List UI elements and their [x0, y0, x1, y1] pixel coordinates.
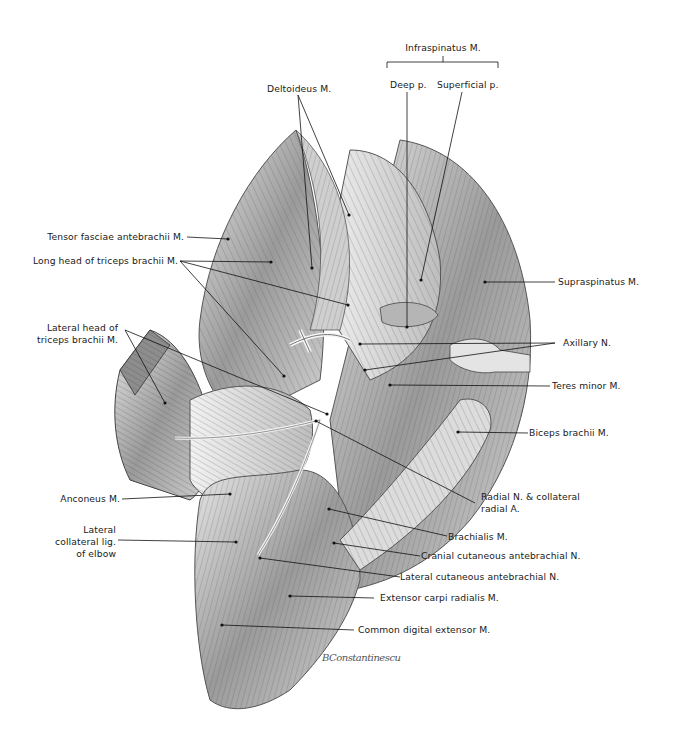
label-axillary-n: Axillary N.: [563, 337, 611, 349]
label-deltoideus: Deltoideus M.: [267, 83, 331, 95]
label-lateral-collateral-line3: of elbow: [20, 548, 116, 560]
label-lateral-collateral-line1: Lateral: [20, 524, 116, 536]
label-cranial-cutaneous: Cranial cutaneous antebrachial N.: [421, 550, 581, 562]
label-lateral-head-triceps-line2: triceps brachii M.: [20, 334, 118, 346]
muscle-illustration: [0, 0, 673, 739]
label-lateral-collateral-line2: collateral lig.: [20, 536, 116, 548]
artist-signature: BConstantinescu: [322, 652, 400, 663]
label-supraspinatus: Supraspinatus M.: [558, 276, 639, 288]
label-infraspinatus: Infraspinatus M.: [402, 42, 484, 54]
label-radial-n-line1: Radial N. & collateral: [481, 491, 580, 503]
label-long-head-triceps: Long head of triceps brachii M.: [20, 255, 178, 267]
label-biceps-brachii: Biceps brachii M.: [529, 427, 609, 439]
label-extensor-carpi: Extensor carpi radialis M.: [380, 592, 499, 604]
label-infraspinatus-deep: Deep p.: [390, 79, 427, 91]
label-common-digital: Common digital extensor M.: [358, 624, 490, 636]
label-anconeus: Anconeus M.: [40, 493, 120, 505]
anatomy-figure: Infraspinatus M. Deep p. Superficial p. …: [0, 0, 673, 739]
label-brachialis: Brachialis M.: [448, 531, 508, 543]
label-lateral-cutaneous: Lateral cutaneous antebrachial N.: [400, 571, 559, 583]
label-infraspinatus-superficial: Superficial p.: [437, 79, 499, 91]
label-lateral-head-triceps-line1: Lateral head of: [20, 322, 118, 334]
label-radial-n-line2: radial A.: [481, 503, 520, 515]
label-tensor-fasciae: Tensor fasciae antebrachii M.: [40, 231, 184, 243]
label-teres-minor: Teres minor M.: [552, 380, 621, 392]
limb-silhouette: [115, 130, 531, 709]
